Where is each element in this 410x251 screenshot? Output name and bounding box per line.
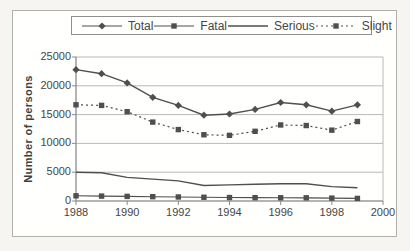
y-tick-label: 5000: [31, 165, 71, 178]
square-marker: [99, 103, 104, 108]
legend-item-slight: Slight: [315, 20, 392, 32]
x-tick-label: 1988: [59, 206, 93, 219]
series-line-fatal: [76, 196, 357, 199]
legend-item-serious: Serious: [227, 20, 315, 32]
square-marker: [355, 119, 360, 124]
series-line-serious: [76, 172, 357, 188]
square-marker: [73, 102, 78, 107]
figure-frame: TotalFatalSeriousSlight Number of person…: [12, 10, 397, 237]
series-line-slight: [76, 105, 357, 136]
legend-sample-serious: [227, 21, 269, 31]
diamond-marker: [200, 112, 207, 119]
square-marker: [227, 133, 232, 138]
chart-legend: TotalFatalSeriousSlight: [71, 16, 372, 35]
square-marker: [355, 196, 360, 201]
square-marker: [176, 127, 181, 132]
legend-label-serious: Serious: [274, 20, 315, 32]
diamond-marker: [149, 94, 156, 101]
x-tick-label: 1998: [315, 206, 349, 219]
square-marker: [329, 127, 334, 132]
square-marker: [176, 194, 181, 199]
y-tick-label: 10000: [31, 136, 71, 149]
x-tick-label: 2000: [366, 206, 400, 219]
y-tick-label: 15000: [31, 108, 71, 121]
square-marker: [124, 194, 129, 199]
diamond-marker: [72, 66, 79, 73]
diamond-marker: [303, 101, 310, 108]
square-marker: [73, 193, 78, 198]
screenshot-root: { "chart_data": { "type": "line", "title…: [0, 0, 410, 251]
legend-sample-slight: [315, 21, 357, 31]
series-line-total: [76, 70, 357, 116]
diamond-marker: [175, 102, 182, 109]
x-tick-label: 1994: [213, 206, 247, 219]
square-marker: [99, 193, 104, 198]
square-marker: [150, 194, 155, 199]
square-marker: [172, 23, 177, 28]
square-marker: [227, 195, 232, 200]
legend-item-fatal: Fatal: [153, 20, 227, 32]
diamond-marker: [98, 22, 105, 29]
x-tick-label: 1996: [264, 206, 298, 219]
square-marker: [201, 132, 206, 137]
legend-label-fatal: Fatal: [200, 20, 227, 32]
x-tick-label: 1992: [161, 206, 195, 219]
square-marker: [124, 109, 129, 114]
diamond-marker: [354, 101, 361, 108]
legend-sample-total: [81, 21, 123, 31]
diamond-marker: [251, 106, 258, 113]
square-marker: [329, 195, 334, 200]
square-marker: [333, 23, 338, 28]
square-marker: [304, 123, 309, 128]
square-marker: [150, 119, 155, 124]
diamond-marker: [277, 99, 284, 106]
square-marker: [278, 195, 283, 200]
diamond-marker: [328, 108, 335, 115]
legend-sample-fatal: [153, 21, 195, 31]
diamond-marker: [98, 70, 105, 77]
legend-label-slight: Slight: [362, 20, 392, 32]
legend-label-total: Total: [128, 20, 153, 32]
legend-item-total: Total: [81, 20, 153, 32]
y-tick-label: 20000: [31, 79, 71, 92]
x-tick-label: 1990: [110, 206, 144, 219]
square-marker: [278, 122, 283, 127]
square-marker: [252, 195, 257, 200]
square-marker: [252, 129, 257, 134]
diamond-marker: [226, 110, 233, 117]
square-marker: [304, 195, 309, 200]
y-tick-label: 25000: [31, 50, 71, 63]
square-marker: [201, 195, 206, 200]
